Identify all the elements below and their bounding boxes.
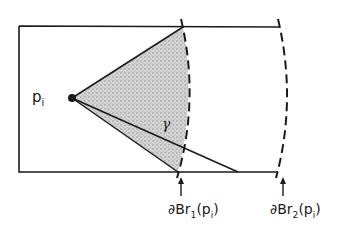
- diagram-svg: [0, 0, 354, 234]
- arrow-up-icon: [280, 177, 286, 196]
- radius-sub: 1: [191, 210, 197, 220]
- point-pi-dot: [68, 94, 76, 102]
- arg-close: ): [315, 201, 320, 217]
- diagram-figure: pi γ ∂Br1(pi) ∂Br2(pi): [0, 0, 354, 234]
- radius-sub: 2: [293, 210, 299, 220]
- arg-sub: i: [313, 210, 316, 220]
- boundary-label-r2: ∂Br2(pi): [270, 202, 321, 216]
- radius-symbol: r: [287, 201, 293, 217]
- arg-sub: i: [211, 210, 214, 220]
- arrow-up-icon: [178, 177, 184, 196]
- boundary-arc-r2: [276, 19, 287, 178]
- boundary-prefix: ∂B: [168, 201, 185, 217]
- arg-open: (p: [298, 201, 312, 217]
- path-label-gamma: γ: [162, 117, 170, 131]
- radius-symbol: r: [185, 201, 191, 217]
- point-label-sub: i: [42, 97, 45, 108]
- point-label-main: p: [32, 88, 42, 106]
- boundary-label-r1: ∂Br1(pi): [168, 202, 219, 216]
- point-label-pi: pi: [32, 90, 44, 105]
- boundary-prefix: ∂B: [270, 201, 287, 217]
- arg-open: (p: [196, 201, 210, 217]
- shaded-sector: [72, 27, 188, 172]
- arg-close: ): [213, 201, 218, 217]
